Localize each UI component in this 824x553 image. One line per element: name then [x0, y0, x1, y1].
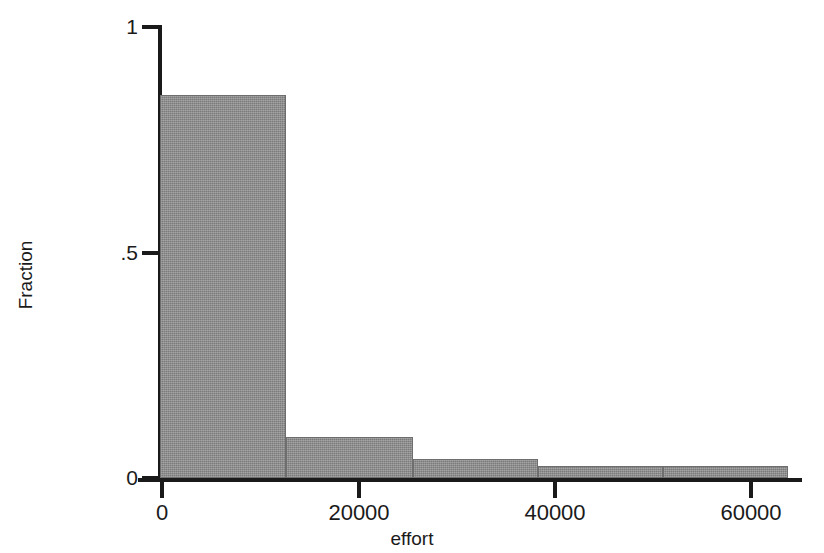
x-tick-label-20000: 20000 [279, 500, 439, 526]
x-tick-mark-40000 [553, 482, 557, 498]
x-tick-mark-60000 [749, 482, 753, 498]
x-tick-label-40000: 40000 [475, 500, 635, 526]
x-tick-mark-20000 [357, 482, 361, 498]
x-tick-label-0: 0 [82, 500, 242, 526]
histogram-bar [663, 466, 789, 478]
histogram-bar [413, 459, 538, 478]
y-axis-title: Fraction [6, 180, 46, 370]
y-tick-label-0point5: .5 [78, 242, 138, 263]
histogram-bar [538, 466, 663, 478]
x-tick-label-60000: 60000 [671, 500, 824, 526]
x-axis-title: effort [0, 528, 824, 550]
y-tick-mark-0 [142, 476, 159, 480]
x-axis-line [138, 478, 802, 482]
y-tick-label-0: 0 [78, 467, 138, 488]
histogram-bar [286, 437, 414, 478]
y-tick-mark-0point5 [142, 251, 159, 255]
histogram-bar [160, 95, 286, 478]
y-tick-mark-1 [142, 25, 159, 29]
y-axis-title-text: Fraction [15, 241, 37, 310]
y-tick-label-1: 1 [78, 16, 138, 37]
histogram-chart: 1 .5 0 0 20000 40000 60000 effort Fracti… [0, 0, 824, 553]
x-tick-mark-0 [160, 482, 164, 498]
